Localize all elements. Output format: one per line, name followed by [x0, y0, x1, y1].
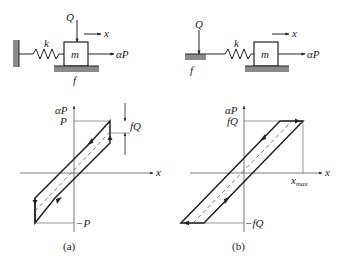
mass-label: m — [71, 48, 79, 60]
friction-label-b: f — [190, 64, 195, 76]
panel-b-plot: x αP fQ −fQ xmax (b) — [181, 104, 330, 253]
xmax-label: xmax — [290, 174, 308, 188]
x-axis-label: x — [155, 166, 161, 178]
friction-pad — [185, 54, 206, 60]
dashed-centerline-b — [193, 121, 292, 223]
spring-k — [19, 49, 64, 59]
hysteresis-loop-a — [35, 121, 110, 223]
caption-b: (b) — [232, 240, 245, 253]
ground — [54, 66, 99, 72]
displacement-label-b: x — [291, 27, 297, 39]
wall — [13, 40, 19, 67]
ground-b — [245, 66, 289, 72]
top-level-label: P — [59, 115, 67, 127]
gap-label: fQ — [130, 120, 141, 132]
spring-k-b — [206, 49, 254, 59]
panel-b-mechanism: f Q k m x αP — [185, 18, 320, 76]
bottom-level-label: −P — [76, 217, 90, 229]
applied-force-label-b: αP — [307, 48, 320, 60]
top-level-label-b: fQ — [227, 115, 238, 127]
spring-label-b: k — [234, 37, 240, 49]
panel-a-plot: x αP P −P fQ (a) — [20, 103, 161, 253]
panel-a-mechanism: k m f Q x αP — [13, 11, 129, 86]
normal-force-label: Q — [66, 11, 74, 23]
caption-a: (a) — [63, 240, 76, 253]
dashed-centerline-a — [35, 132, 110, 211]
x-axis-label-b: x — [324, 166, 330, 178]
normal-force-label-b: Q — [195, 18, 203, 30]
spring-label: k — [44, 37, 50, 49]
diagram-canvas: k m f Q x αP f Q k m x — [0, 0, 343, 262]
displacement-label: x — [103, 27, 109, 39]
bottom-level-label-b: −fQ — [245, 217, 263, 229]
applied-force-label: αP — [116, 48, 129, 60]
mass-label-b: m — [261, 48, 269, 60]
friction-label: f — [73, 74, 78, 86]
